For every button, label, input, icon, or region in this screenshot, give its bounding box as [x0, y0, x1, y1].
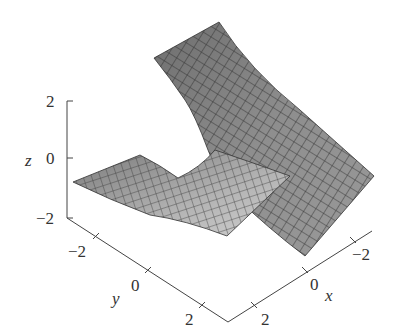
x-tick-label: −2 [352, 246, 370, 263]
x-tick-label: 2 [261, 311, 270, 328]
y-tick-label: 0 [131, 277, 140, 294]
y-tick-label: −2 [68, 243, 86, 260]
x-tick-label: 0 [310, 276, 319, 293]
z-tick-label: 0 [46, 150, 55, 167]
y-tick-label: 2 [185, 311, 194, 328]
surface-plot [0, 0, 403, 335]
z-tick-label: 2 [46, 93, 55, 110]
z-axis-label: z [25, 152, 32, 169]
z-tick-label: −2 [36, 210, 54, 227]
x-axis-label: x [325, 287, 333, 304]
y-axis-label: y [112, 290, 120, 307]
